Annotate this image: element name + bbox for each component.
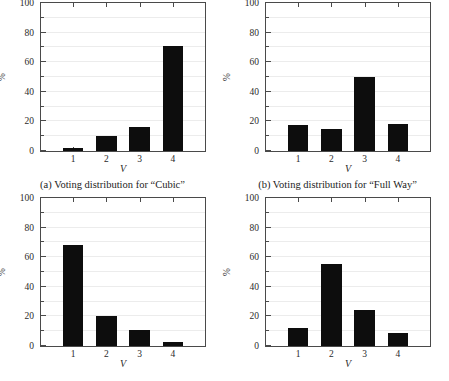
y-tick-mark [266,197,271,198]
gridline [266,301,430,302]
x-tick-label: 4 [395,349,400,359]
gridline [266,46,430,47]
y-tick-label: 60 [250,57,260,67]
x-tick-label: 3 [362,154,367,164]
bar [388,333,409,346]
top-tick-mark [365,198,366,202]
top-tick-mark [106,198,107,202]
y-tick-mark [41,120,46,121]
y-tick-label: 100 [20,0,34,8]
bar [63,148,84,151]
y-tick-mark [266,227,271,228]
gridline [41,17,205,18]
bar [354,310,375,346]
y-tick-mark [41,106,44,107]
gridline [266,76,430,77]
chart-panel-a: 020406080100 % 1234 V (a) Voting distrib… [0,2,206,152]
y-tick-mark [41,212,44,213]
y-tick-label: 20 [25,311,35,321]
gridline [266,241,430,242]
y-axis-title-c: % [0,268,7,276]
x-tick-label: 3 [137,349,142,359]
y-tick-mark [41,150,46,151]
y-tick-label: 100 [245,193,259,203]
gridline [266,286,430,287]
y-tick-label: 80 [25,223,35,233]
bar [163,342,184,346]
top-tick-mark [73,3,74,7]
top-tick-mark [298,3,299,7]
x-axis-title-c: V [120,358,126,369]
gridline [41,212,205,213]
y-tick-mark [41,17,44,18]
y-axis-title-b: % [222,73,232,81]
gridline [266,315,430,316]
x-tick-label: 1 [71,349,76,359]
top-tick-mark [331,198,332,202]
panel-caption-a: (a) Voting distribution for “Cubic” [0,179,225,190]
y-tick-label: 100 [245,0,259,8]
bar [96,136,117,151]
y-tick-label: 80 [250,28,260,38]
top-tick-mark [331,3,332,7]
y-tick-mark [266,241,269,242]
y-tick-mark [266,46,269,47]
y-tick-label: 0 [29,146,34,156]
y-tick-label: 20 [250,311,260,321]
x-tick-label: 1 [296,349,301,359]
y-tick-mark [41,91,46,92]
gridline [266,256,430,257]
y-tick-label: 20 [25,116,35,126]
bar [288,328,309,346]
x-tick-label: 4 [170,349,175,359]
x-tick-label: 4 [395,154,400,164]
y-tick-mark [41,2,46,3]
y-tick-mark [266,120,271,121]
gridline [266,106,430,107]
y-tick-label: 0 [254,341,259,351]
y-axis-title-d: % [222,268,232,276]
x-tick-label: 1 [71,154,76,164]
x-axis-title-d: V [345,358,351,369]
y-tick-label: 40 [250,282,260,292]
chart-panel-c: 020406080100 % 1234 V [0,197,206,347]
bar [288,125,309,151]
x-axis-title-a: V [120,163,126,174]
y-tick-mark [41,227,46,228]
top-tick-mark [73,198,74,202]
bar [354,77,375,151]
top-tick-mark [173,3,174,7]
y-tick-label: 40 [25,87,35,97]
chart-panel-d: 020406080100 % 1234 V [225,197,431,347]
x-tick-label: 4 [170,154,175,164]
x-tick-label: 1 [296,154,301,164]
y-tick-mark [41,330,44,331]
gridline [266,91,430,92]
top-tick-mark [298,198,299,202]
top-tick-mark [398,3,399,7]
y-tick-label: 0 [29,341,34,351]
y-tick-mark [41,46,44,47]
y-tick-mark [266,315,271,316]
y-tick-mark [266,286,271,287]
y-tick-label: 60 [250,252,260,262]
gridline [266,61,430,62]
x-tick-label: 3 [362,349,367,359]
y-tick-mark [41,241,44,242]
y-tick-mark [266,345,271,346]
y-tick-label: 20 [250,116,260,126]
bar [63,245,84,346]
bar [129,330,150,346]
x-tick-label: 2 [104,349,109,359]
y-tick-mark [266,76,269,77]
y-tick-mark [41,61,46,62]
gridline [266,212,430,213]
gridline [41,227,205,228]
axes-frame-d [265,197,431,347]
gridline [41,32,205,33]
bar [96,316,117,346]
y-tick-mark [266,256,271,257]
bar [129,127,150,151]
top-tick-mark [140,3,141,7]
y-tick-label: 100 [20,193,34,203]
